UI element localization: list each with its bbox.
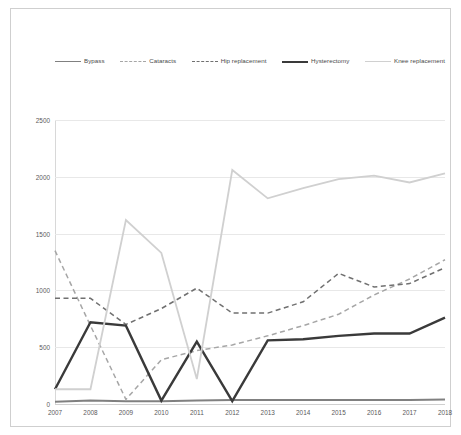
x-tick-label: 2008 xyxy=(83,409,97,416)
series-line-hysterectomy xyxy=(55,318,445,402)
x-tick-label: 2018 xyxy=(438,409,452,416)
x-tick-label: 2007 xyxy=(48,409,62,416)
y-tick-label: 2000 xyxy=(36,173,50,180)
legend-item-hip-replacement[interactable]: Hip replacement xyxy=(192,58,267,64)
chart-legend: BypassCataractsHip replacementHysterecto… xyxy=(55,58,445,64)
plot-area xyxy=(55,120,445,404)
x-tick-label: 2015 xyxy=(332,409,346,416)
series-line-bypass xyxy=(55,399,445,401)
series-line-knee-replacement xyxy=(55,170,445,389)
legend-item-cataracts[interactable]: Cataracts xyxy=(120,58,176,64)
y-tick-label: 2500 xyxy=(36,117,50,124)
y-tick-label: 1500 xyxy=(36,230,50,237)
legend-label: Knee replacement xyxy=(394,58,445,64)
y-tick-label: 0 xyxy=(46,401,50,408)
x-tick-label: 2013 xyxy=(261,409,275,416)
legend-label: Hip replacement xyxy=(221,58,267,64)
y-axis-tick-labels: 05001000150020002500 xyxy=(14,120,50,404)
legend-item-knee-replacement[interactable]: Knee replacement xyxy=(365,58,445,64)
legend-label: Bypass xyxy=(84,58,105,64)
x-axis-line xyxy=(55,404,445,405)
x-axis-tick-labels: 2007200820092010201120122013201420152016… xyxy=(55,409,445,423)
legend-item-hysterectomy[interactable]: Hysterectomy xyxy=(282,58,349,64)
chart-container: BypassCataractsHip replacementHysterecto… xyxy=(0,0,461,435)
x-tick-label: 2012 xyxy=(225,409,239,416)
legend-item-bypass[interactable]: Bypass xyxy=(55,58,105,64)
x-tick-label: 2009 xyxy=(119,409,133,416)
legend-label: Hysterectomy xyxy=(311,58,349,64)
x-tick-label: 2011 xyxy=(190,409,204,416)
x-tick-label: 2017 xyxy=(402,409,416,416)
y-tick-label: 500 xyxy=(39,344,50,351)
x-tick-label: 2010 xyxy=(154,409,168,416)
x-tick-label: 2016 xyxy=(367,409,381,416)
x-tick-label: 2014 xyxy=(296,409,310,416)
y-tick-label: 1000 xyxy=(36,287,50,294)
series-lines xyxy=(55,120,445,404)
legend-label: Cataracts xyxy=(149,58,176,64)
